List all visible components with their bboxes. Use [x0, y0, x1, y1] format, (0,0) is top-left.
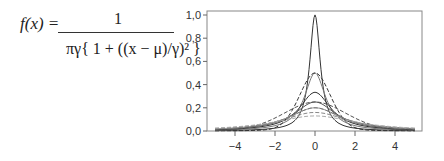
density-curve	[215, 92, 415, 129]
density-curve	[215, 102, 415, 129]
y-tick-label: 1,0	[186, 9, 201, 21]
plot-frame	[207, 11, 422, 131]
density-curve	[215, 116, 415, 128]
x-tick-label: −2	[269, 140, 282, 152]
x-tick-label: 2	[352, 140, 358, 152]
x-tick-label: 4	[392, 140, 398, 152]
y-tick-label: 0,8	[186, 32, 201, 44]
x-axis: −4−2024	[229, 131, 398, 152]
figure: f(x) = 1 πγ{ 1 + ((x − μ)/γ)² } 0,00,20,…	[0, 0, 444, 161]
y-tick-label: 0,0	[186, 125, 201, 137]
y-tick-label: 0,4	[186, 79, 201, 91]
x-tick-label: 0	[312, 140, 318, 152]
y-tick-label: 0,2	[186, 102, 201, 114]
chart: 0,00,20,40,60,81,0 −4−2024	[0, 0, 444, 161]
x-tick-label: −4	[229, 140, 242, 152]
curves	[215, 15, 415, 131]
y-axis: 0,00,20,40,60,81,0	[186, 9, 207, 137]
y-tick-label: 0,6	[186, 55, 201, 67]
